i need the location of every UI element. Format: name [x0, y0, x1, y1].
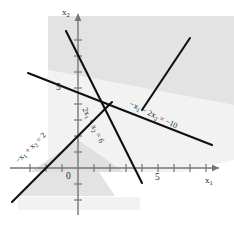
y-axis-label: x2: [62, 8, 70, 17]
x-axis-label: x1: [205, 176, 213, 185]
x-tick-label-5: 5: [155, 173, 160, 183]
y-tick-label-5: 5: [56, 83, 61, 93]
shaded-region: [18, 16, 234, 210]
linear-programming-figure: x1 x2 0 5 5 −x1 + x2 = 2 2x1 + x2 = 6 −x…: [0, 0, 234, 227]
plot-canvas: [0, 0, 234, 227]
origin-label: 0: [66, 172, 71, 182]
